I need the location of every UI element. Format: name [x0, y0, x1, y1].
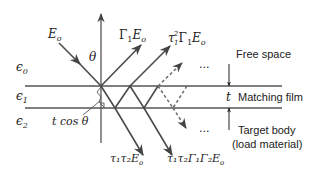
incident-label: Eo	[47, 27, 62, 43]
eps0-label: ϵ0	[16, 60, 28, 76]
transmitted-2-label: τ₁τ₂Γ₁Γ₂Eo	[167, 152, 224, 167]
transmitted-ray-2	[144, 108, 172, 155]
matching-film-label: Matching film	[238, 91, 303, 103]
reflected-2-label: τ21Γ1Eo	[168, 30, 206, 47]
incident-ray-tail	[78, 62, 101, 86]
incident-ray	[59, 43, 80, 64]
film-zigzag-dashed	[158, 86, 187, 108]
film-zigzag-path	[101, 86, 158, 108]
thickness-label: t	[226, 90, 231, 104]
theta-label: θ	[89, 50, 97, 64]
ellipsis-top: ...	[199, 58, 210, 71]
eps1-label: ϵ1	[16, 89, 28, 105]
ellipsis-bottom: ...	[199, 122, 210, 135]
reflected-ray-1	[101, 45, 141, 86]
matching-film-diagram: ϵ0 ϵ1 ϵ2 Eo θ Γ1Eo τ21Γ1Eo ... ... t t c…	[0, 0, 313, 178]
target-body-label: Target body	[238, 124, 296, 136]
reflected-ray-3-dashed	[158, 63, 182, 86]
tcos-label: t cos θ	[52, 115, 89, 128]
load-material-label: (load material)	[232, 138, 302, 150]
transmitted-1-label: τ₁τ₂Eo	[110, 152, 143, 167]
reflected-1-label: Γ1Eo	[119, 28, 146, 44]
transmitted-ray-3-dashed	[173, 108, 186, 128]
free-space-label: Free space	[236, 48, 291, 60]
eps2-label: ϵ2	[16, 114, 28, 130]
transmitted-ray-1	[115, 108, 143, 155]
